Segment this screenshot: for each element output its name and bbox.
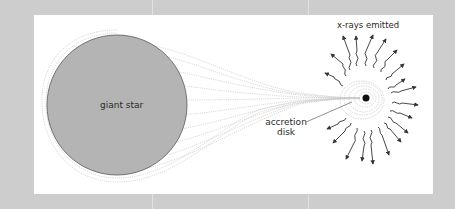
accretion-disk-label: accretion disk xyxy=(264,117,308,137)
accretion-disk-label-line2: disk xyxy=(264,127,308,137)
xray-arrows xyxy=(325,35,418,164)
accretion-disk xyxy=(340,81,384,119)
xray-binary-diagram xyxy=(0,0,455,209)
accretion-disk-label-line1: accretion xyxy=(264,117,308,127)
compact-object xyxy=(363,95,370,102)
xrays-label: x-rays emitted xyxy=(337,20,399,30)
giant-star-label: giant star xyxy=(100,100,143,110)
